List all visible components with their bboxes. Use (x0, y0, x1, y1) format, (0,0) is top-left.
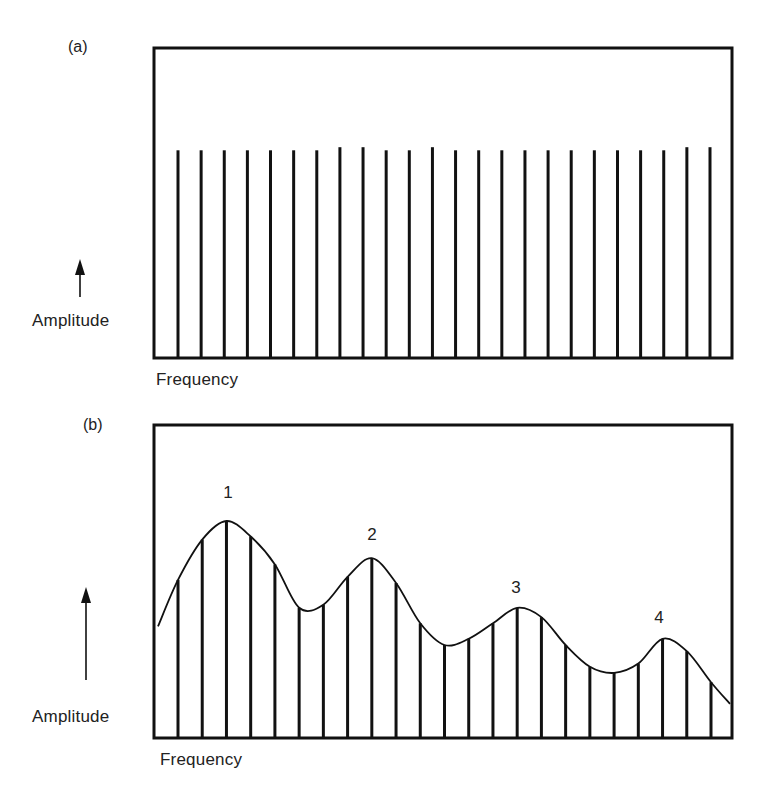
panel-a-amplitude-arrow-icon (75, 259, 85, 275)
panel-a-y-axis-label: Amplitude (32, 311, 109, 331)
panel-b-y-axis-label: Amplitude (32, 707, 109, 727)
panel-b-amplitude-arrow-icon (81, 587, 91, 603)
panel-b-x-axis-label: Frequency (160, 750, 242, 770)
peak-label-4: 4 (654, 608, 663, 628)
peak-label-3: 3 (511, 578, 520, 598)
peak-label-1: 1 (223, 483, 232, 503)
panel-a-frame (154, 48, 732, 358)
peak-label-2: 2 (367, 525, 376, 545)
panel-a-x-axis-label: Frequency (156, 370, 238, 390)
panel-b-label: (b) (83, 416, 103, 434)
panel-a-plot (0, 0, 768, 792)
